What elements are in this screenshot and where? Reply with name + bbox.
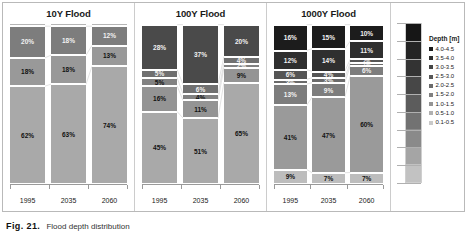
plot-area-1000y: 16%12%6%3%13%41%9%15%14%4%3%9%47%7%10%11…: [274, 21, 383, 211]
legend-item: 3.0-3.5: [429, 64, 459, 71]
legend-item: 2.5-3.0: [429, 73, 459, 80]
bar-segment: 11%: [183, 100, 218, 118]
bar-segment: 13%: [92, 46, 127, 67]
bar-segment: 18%: [10, 58, 45, 86]
bar-segment-label: 65%: [235, 130, 248, 137]
bar-segment-label: 51%: [194, 148, 207, 155]
bar-segment-label: 18%: [62, 37, 75, 44]
bar-segment-label: 6%: [286, 71, 295, 78]
bar-segment-label: 63%: [62, 131, 75, 138]
bar-segment: 6%: [183, 84, 218, 94]
bar-segment: 12%: [92, 26, 127, 45]
bar-segment-label: 6%: [196, 86, 205, 93]
bar-segment-label: 9%: [286, 173, 295, 180]
bar-segment-label: 18%: [62, 66, 75, 73]
x-axis-label: 1995: [274, 196, 307, 205]
legend-item: 0.1-0.5: [429, 119, 459, 126]
legend-item-list: 4.0-4.53.5-4.03.0-3.52.5-3.02.0-2.51.5-2…: [429, 46, 459, 129]
bar-segment: 9%: [274, 170, 307, 184]
bar-segment: 5%: [142, 70, 177, 78]
gradient-segment: [406, 129, 421, 147]
bar-segment: 9%: [224, 68, 259, 82]
x-axis-label: 2060: [92, 196, 127, 205]
legend-swatch-icon: [429, 75, 433, 79]
bar-segment: 6%: [350, 66, 383, 76]
bar-segment-label: 60%: [360, 121, 373, 128]
bars-10y: 20%18%62%18%18%63%12%13%74%: [10, 23, 127, 184]
x-axis-label: 1995: [142, 196, 177, 205]
gradient-segment: [406, 147, 421, 165]
bar-segment-label: 18%: [21, 68, 34, 75]
bar-segment-label: 5%: [155, 70, 164, 77]
bar-segment: 18%: [51, 55, 86, 84]
plot-area-10y: 20%18%62%18%18%63%12%13%74% 199520352060: [10, 21, 127, 211]
bar-segment-label: 14%: [322, 57, 335, 64]
bar-segment-label: 41%: [284, 134, 297, 141]
bar-segment-label: 62%: [21, 132, 34, 139]
gradient-tick: [397, 130, 421, 131]
x-axis-tick: [274, 185, 275, 189]
x-axis-label: 2060: [224, 196, 259, 205]
bar-segment-label: 47%: [322, 132, 335, 139]
bar-segment-label: 12%: [103, 32, 116, 39]
gradient-tick: [397, 112, 421, 113]
x-axis-ticks-10y: [10, 185, 127, 189]
legend-item-label: 1.5-2.0: [436, 91, 455, 98]
legend-swatch-icon: [429, 93, 433, 97]
bar-segment-label: 16%: [284, 34, 297, 41]
bar-segment: 11%: [350, 41, 383, 59]
bar-segment-label: 13%: [103, 52, 116, 59]
bar-segment: 13%: [274, 84, 307, 105]
x-axis-label: 2035: [183, 196, 218, 205]
bar-column: 12%13%74%: [92, 23, 127, 184]
bar-column: 20%4%2%9%65%: [224, 23, 259, 184]
bar-segment-label: 5%: [155, 79, 164, 86]
bar-segment-label: 7%: [324, 175, 333, 182]
figure-box: 10Y Flood 20%18%62%18%18%63%12%13%74% 19…: [2, 2, 465, 212]
legend-item-label: 4.0-4.5: [436, 46, 455, 53]
bar-column: 18%18%63%: [51, 23, 86, 184]
bar-segment-label: 16%: [153, 95, 166, 102]
legend-panel: Depth [m] 4.0-4.53.5-4.03.0-3.52.5-3.02.…: [391, 3, 464, 211]
bar-segment-label: 6%: [362, 67, 371, 74]
gradient-tick: [397, 59, 421, 60]
legend-item-label: 0.1-0.5: [436, 119, 455, 126]
bar-segment-label: 10%: [360, 30, 373, 37]
legend-item: 4.0-4.5: [429, 46, 459, 53]
x-axis-tick: [310, 185, 311, 189]
x-axis-tick: [127, 185, 128, 189]
x-axis-tick: [142, 185, 143, 189]
gradient-segment: [406, 112, 421, 130]
chart-title-10y: 10Y Flood: [3, 3, 134, 21]
bar-segment: 7%: [350, 173, 383, 184]
bar-segment-label: 9%: [237, 72, 246, 79]
bar-segment: 41%: [274, 105, 307, 169]
bar-segment: 37%: [183, 25, 218, 84]
gradient-tick: [397, 76, 421, 77]
bar-segment: 5%: [142, 78, 177, 86]
bar-segment: 16%: [142, 86, 177, 112]
legend-swatch-icon: [429, 121, 433, 125]
gradient-segment: [406, 42, 421, 60]
bar-segment-label: 12%: [284, 57, 297, 64]
bar-column: 20%18%62%: [10, 23, 45, 184]
gradient-segment: [406, 164, 421, 182]
legend-item-label: 2.0-2.5: [436, 82, 455, 89]
x-axis-tick: [88, 185, 89, 189]
legend-swatch-icon: [429, 47, 433, 51]
x-axis-label: 2035: [51, 196, 86, 205]
figure-caption-text: Flood depth distribution: [46, 222, 129, 231]
x-axis-labels-10y: 199520352060: [10, 196, 127, 205]
gradient-segment: [406, 94, 421, 112]
x-axis-tick: [347, 185, 348, 189]
bar-segment: 12%: [274, 51, 307, 70]
legend-title: Depth [m]: [429, 35, 459, 42]
legend-swatch-icon: [429, 56, 433, 60]
legend-item-label: 3.5-4.0: [436, 55, 455, 62]
legend-item-label: 1.0-1.5: [436, 101, 455, 108]
x-axis-tick: [383, 185, 384, 189]
bar-segment-label: 9%: [324, 87, 333, 94]
legend-item-label: 3.0-3.5: [436, 64, 455, 71]
depth-gradient-scale: [397, 23, 423, 183]
x-axis-ticks-100y: [142, 185, 259, 189]
